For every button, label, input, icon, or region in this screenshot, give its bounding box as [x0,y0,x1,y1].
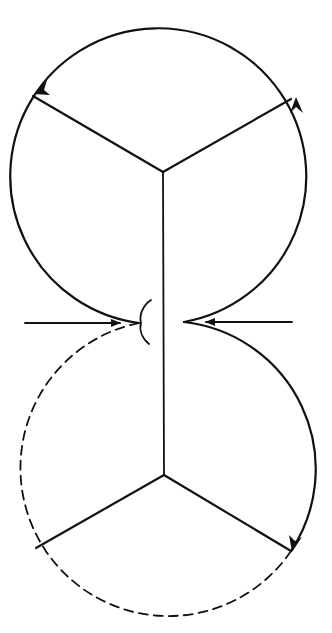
lower-spoke-left [36,475,164,548]
diagram-canvas [0,0,332,633]
center-vertical-line [163,172,164,475]
upper-circle-arc [10,28,306,323]
upper-spoke-left [33,96,163,172]
lower-circle-solid-arc [184,322,316,551]
junction-bracket [140,300,151,344]
upper-spoke-right [163,99,291,172]
arrowhead-upper-left [34,80,50,95]
lower-spoke-right [164,475,291,551]
lower-circle-dashed-arc [20,323,291,616]
